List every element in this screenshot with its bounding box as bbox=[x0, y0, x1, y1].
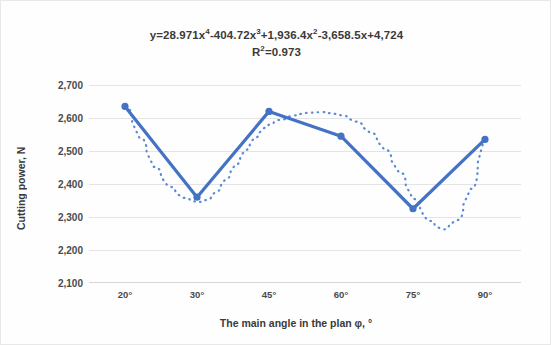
y-axis-tick-label: 2,400 bbox=[58, 179, 83, 190]
x-axis-tick-label: 30° bbox=[190, 289, 204, 300]
x-axis-tick-label: 60° bbox=[334, 289, 348, 300]
data-point-markers bbox=[121, 103, 488, 213]
series-layer bbox=[89, 85, 521, 283]
data-series-line bbox=[125, 106, 485, 208]
x-axis-tick-label: 75° bbox=[406, 289, 420, 300]
x-axis-tick-label: 45° bbox=[262, 289, 276, 300]
y-axis-tick-label: 2,200 bbox=[58, 245, 83, 256]
data-point-marker bbox=[265, 108, 272, 115]
data-point-marker bbox=[193, 194, 200, 201]
data-point-marker bbox=[337, 133, 344, 140]
y-axis-title: Cutting power, N bbox=[11, 113, 31, 263]
x-axis-tick-label: 90° bbox=[478, 289, 492, 300]
y-axis-tick-label: 2,700 bbox=[58, 80, 83, 91]
y-axis-tick-labels: 2,1002,2002,3002,4002,5002,6002,700 bbox=[35, 85, 83, 283]
x-axis-title: The main angle in the plan φ, ° bbox=[61, 317, 531, 329]
equation-term-4: -3,658.5x+4,724 bbox=[318, 29, 404, 41]
y-axis-tick-label: 2,100 bbox=[58, 278, 83, 289]
equation-line: y=28.971x4-404.72x3+1,936.4x2-3,658.5x+4… bbox=[1, 27, 551, 44]
equation-term-3: +1,936.4x bbox=[261, 29, 313, 41]
equation-term-2: -404.72x bbox=[210, 29, 256, 41]
data-point-marker bbox=[481, 136, 488, 143]
x-axis-tick-label: 20° bbox=[118, 289, 132, 300]
r-squared-value: =0.973 bbox=[265, 46, 301, 58]
equation-prefix: y=28.971x bbox=[150, 29, 206, 41]
y-axis-tick-label: 2,600 bbox=[58, 113, 83, 124]
chart-container: y=28.971x4-404.72x3+1,936.4x2-3,658.5x+4… bbox=[0, 0, 551, 345]
data-point-marker bbox=[121, 103, 128, 110]
y-axis-tick-label: 2,300 bbox=[58, 212, 83, 223]
r-squared-line: R2=0.973 bbox=[1, 44, 551, 61]
trendline-equation-label: y=28.971x4-404.72x3+1,936.4x2-3,658.5x+4… bbox=[1, 27, 551, 61]
trendline-path bbox=[125, 107, 485, 229]
data-point-marker bbox=[409, 205, 416, 212]
plot-area bbox=[89, 85, 521, 283]
y-axis-tick-label: 2,500 bbox=[58, 146, 83, 157]
x-axis-tick-labels: 20°30°45°60°75°90° bbox=[89, 289, 521, 305]
